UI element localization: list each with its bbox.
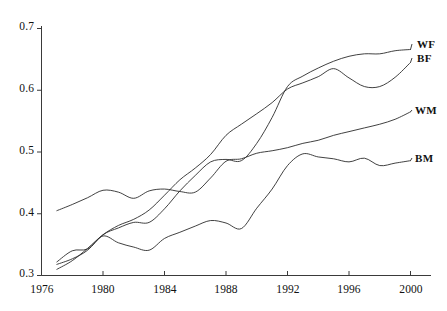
series-label-bm: BM bbox=[415, 152, 433, 164]
x-tick-label-2000: 2000 bbox=[391, 283, 431, 295]
x-tick-label-1976: 1976 bbox=[22, 283, 62, 295]
x-tick-label-1988: 1988 bbox=[206, 283, 246, 295]
x-tick-label-1996: 1996 bbox=[329, 283, 369, 295]
x-axis-ticks bbox=[42, 271, 411, 276]
series-label-wf: WF bbox=[417, 38, 435, 50]
series-label-wm: WM bbox=[415, 104, 437, 116]
x-tick-label-1992: 1992 bbox=[268, 283, 308, 295]
series-line-bm bbox=[57, 154, 411, 262]
leader-line-wm bbox=[411, 110, 413, 112]
leader-line-bm bbox=[411, 158, 413, 161]
series-leader-lines bbox=[411, 44, 413, 161]
chart-canvas bbox=[0, 0, 447, 311]
y-axis-ticks bbox=[37, 29, 42, 276]
leader-line-wf bbox=[411, 44, 413, 50]
x-tick-label-1984: 1984 bbox=[145, 283, 185, 295]
y-tick-label-0.3: 0.3 bbox=[6, 267, 34, 279]
y-tick-label-0.5: 0.5 bbox=[6, 144, 34, 156]
x-axis bbox=[42, 271, 432, 276]
y-axis bbox=[37, 26, 42, 276]
y-tick-label-0.7: 0.7 bbox=[6, 20, 34, 32]
series-paths bbox=[57, 50, 411, 270]
line-chart: 0.7 0.6 0.5 0.4 0.3 1976 1980 1984 1988 … bbox=[0, 0, 447, 311]
y-tick-label-0.4: 0.4 bbox=[6, 206, 34, 218]
series-line-wf bbox=[57, 50, 411, 265]
y-tick-label-0.6: 0.6 bbox=[6, 82, 34, 94]
leader-line-bf bbox=[411, 58, 413, 62]
x-tick-label-1980: 1980 bbox=[83, 283, 123, 295]
series-label-bf: BF bbox=[417, 52, 432, 64]
